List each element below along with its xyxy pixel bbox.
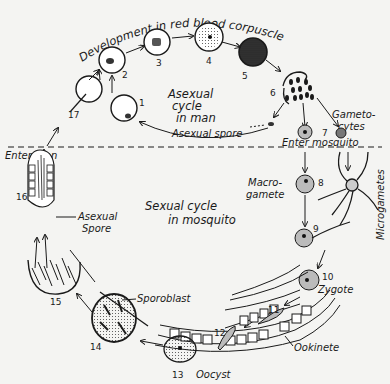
stage-8: 8 — [296, 175, 324, 193]
malaria-life-cycle-diagram: Development in red blood corpuscles 17 2… — [0, 0, 390, 384]
stage-5: 5 — [239, 38, 267, 81]
stage-1: 1 — [111, 95, 145, 121]
svg-text:1: 1 — [139, 98, 145, 108]
stage-13: 13 — [164, 336, 196, 380]
svg-text:17: 17 — [68, 110, 79, 120]
svg-text:16: 16 — [16, 192, 28, 202]
svg-text:11: 11 — [268, 305, 279, 315]
oocyst-label: Oocyst — [196, 369, 232, 380]
sporoblast-label: Sporoblast — [137, 293, 192, 304]
macrogamete-label-1: Macro- — [248, 177, 282, 188]
asexual-spore-label: Asexual spore — [171, 128, 242, 139]
svg-text:10: 10 — [322, 272, 334, 282]
enter-mosquito-label: Enter mosquito — [282, 137, 359, 148]
svg-text:13: 13 — [172, 370, 183, 380]
svg-text:14: 14 — [90, 342, 102, 352]
stage-6: 6 — [270, 72, 314, 104]
svg-text:8: 8 — [318, 178, 324, 188]
gametocytes-label-1: Gameto- — [332, 109, 376, 120]
macrogamete-label-2: gamete — [246, 189, 284, 200]
stage-3: 3 — [144, 29, 170, 68]
sexual-label-2: in mosquito — [168, 213, 236, 227]
svg-text:5: 5 — [242, 71, 248, 81]
stage-4: 4 — [195, 23, 223, 66]
asexual-spore — [268, 122, 274, 126]
ookinete-label: Ookinete — [294, 342, 339, 353]
stage-9: 9 — [295, 222, 350, 247]
svg-text:2: 2 — [122, 70, 128, 80]
asexual-label-3: in man — [176, 111, 216, 125]
stage-17: 17 — [68, 76, 102, 120]
svg-text:15: 15 — [50, 297, 61, 307]
svg-text:6: 6 — [270, 88, 276, 98]
stage-2: 2 — [99, 47, 128, 80]
zygote-label: Zygote — [317, 284, 353, 295]
svg-text:3: 3 — [156, 58, 162, 68]
svg-text:9: 9 — [313, 224, 319, 234]
svg-text:12: 12 — [214, 328, 225, 338]
sexual-label-1: Sexual cycle — [145, 199, 217, 213]
asexual-spore-left-label-2: Spore — [82, 223, 111, 234]
asexual-spore-left-label-1: Asexual — [77, 211, 118, 222]
microgametes-label: Microgametes — [375, 169, 386, 240]
svg-text:4: 4 — [206, 56, 212, 66]
stage-15: 15 — [28, 250, 95, 307]
